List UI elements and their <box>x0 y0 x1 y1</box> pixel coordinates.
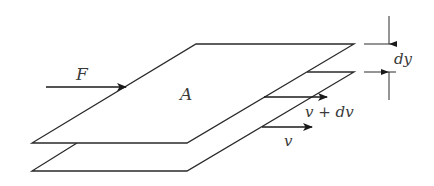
shear-flow-diagram: F A v + dv v dy <box>0 0 434 186</box>
force-label: F <box>75 64 89 84</box>
top-plate <box>32 44 354 143</box>
separation-dimension <box>364 16 396 100</box>
lower-velocity-label: v <box>284 132 293 150</box>
separation-label: dy <box>394 50 413 68</box>
upper-velocity-label: v + dv <box>305 103 354 121</box>
area-label: A <box>178 84 192 104</box>
